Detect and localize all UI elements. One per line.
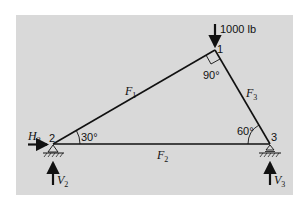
node-3-label: 3 [271,131,277,143]
diagram-panel [16,15,293,195]
node-1-label: 1 [217,43,223,55]
node-2-label: 2 [49,132,55,144]
angle-label-30: 30° [81,131,98,143]
truss-diagram: 1000 lb 1 2 3 90° 30° 60° F1 F2 F3 H2 V2… [0,0,306,207]
angle-label-90: 90° [203,69,220,81]
applied-load-label: 1000 lb [220,23,256,35]
angle-label-60: 60° [237,125,254,137]
